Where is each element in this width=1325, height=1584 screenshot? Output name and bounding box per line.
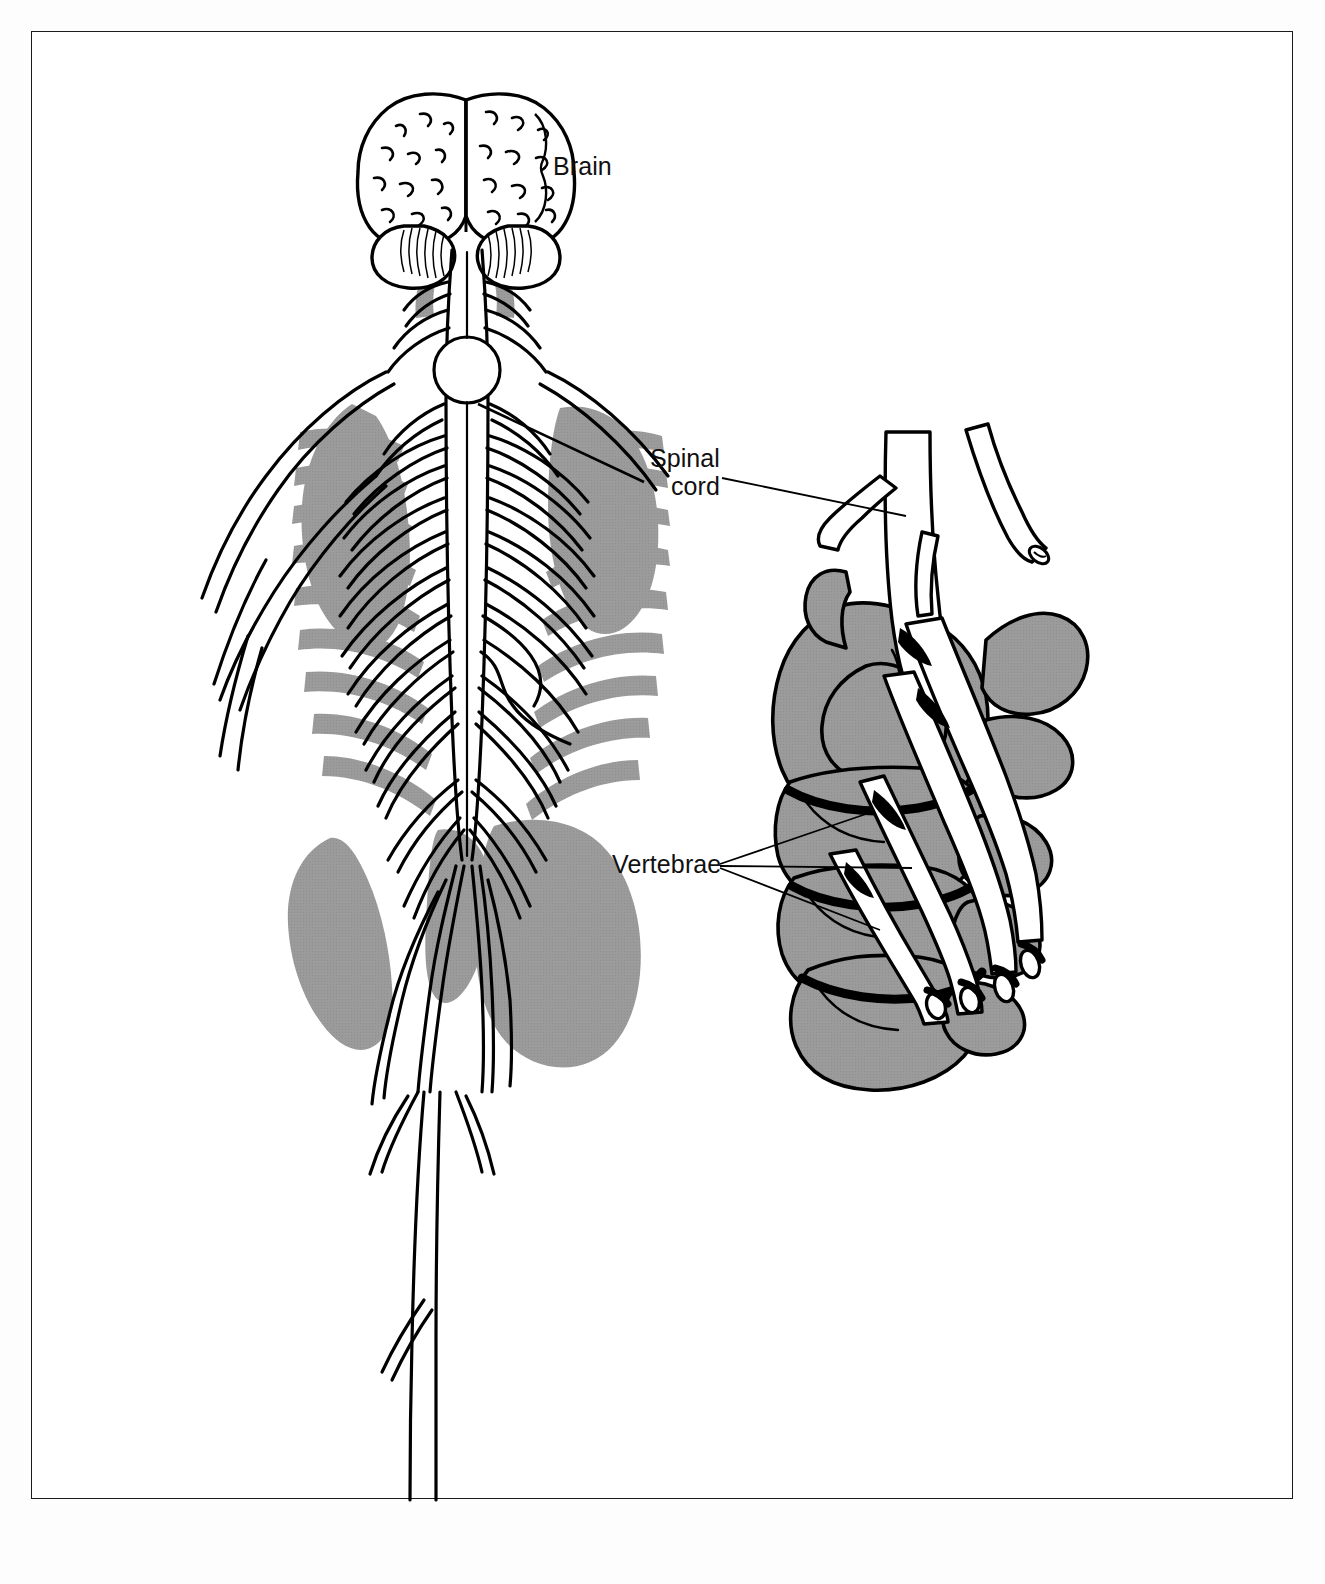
label-spinal-cord-line2: cord	[671, 472, 720, 500]
cerebellum-left-lobe	[372, 226, 455, 288]
label-vertebrae: Vertebrae	[612, 850, 721, 878]
cut-nerve-root-upper	[966, 424, 1046, 562]
label-spinal-cord-line1: Spinal	[650, 444, 720, 472]
cerebellum-right-lobe	[477, 226, 560, 288]
atlas-vertebra-ring	[434, 337, 500, 403]
cerebrum-left-hemisphere	[358, 94, 467, 246]
figure-root: Brain Spinalcord Vertebrae	[0, 0, 1325, 1584]
anatomy-illustration	[0, 0, 1325, 1584]
sciatic-nerve	[382, 1092, 440, 1500]
pelvis-shadow-left	[288, 838, 393, 1050]
label-brain: Brain	[553, 152, 612, 180]
thigh-nerve-branches	[370, 1092, 494, 1174]
transverse-process-1	[982, 613, 1088, 714]
label-spinal-cord: Spinalcord	[648, 444, 720, 500]
